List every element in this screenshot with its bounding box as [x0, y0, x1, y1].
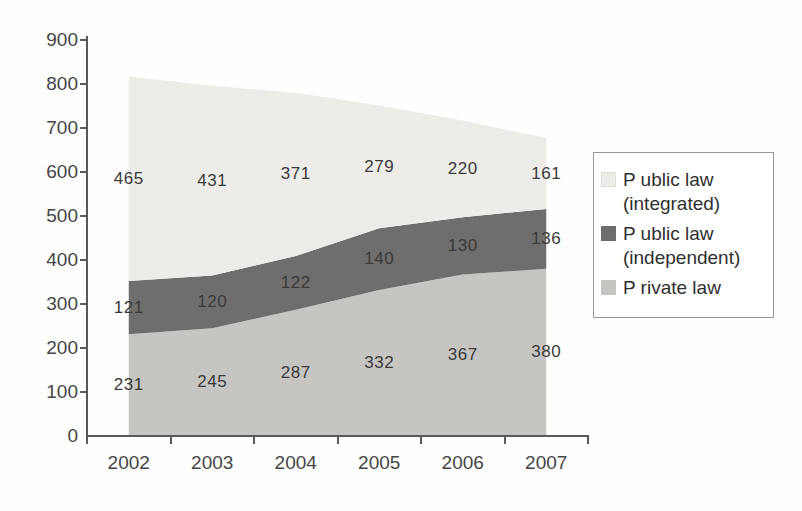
stacked-area-chart: 0100200300400500600700800900 20022003200…	[0, 0, 802, 511]
legend-label-line: P rivate law	[623, 276, 721, 300]
legend-label-line: P ublic law	[623, 222, 740, 246]
x-axis-tick-label: 2002	[108, 452, 150, 474]
y-axis-tick-label: 900	[46, 29, 78, 51]
legend-item-public-law-integrated: P ublic law (integrated)	[601, 168, 767, 216]
legend-label-line: (integrated)	[623, 192, 720, 216]
value-label: 161	[531, 164, 561, 184]
y-axis-tick-label: 800	[46, 73, 78, 95]
legend-item-public-law-independent: P ublic law (independent)	[601, 222, 767, 270]
value-label: 380	[531, 342, 561, 362]
value-label: 465	[114, 169, 144, 189]
value-label: 279	[364, 157, 394, 177]
y-axis-tick-label: 200	[46, 337, 78, 359]
y-axis-tick-label: 700	[46, 117, 78, 139]
legend-label-private-law: P rivate law	[623, 276, 721, 300]
x-axis-tick-label: 2006	[442, 452, 484, 474]
value-label: 332	[364, 353, 394, 373]
y-axis-tick-label: 0	[67, 425, 78, 447]
y-axis-tick-label: 300	[46, 293, 78, 315]
legend-label-line: P ublic law	[623, 168, 720, 192]
value-label: 136	[531, 229, 561, 249]
value-label: 130	[448, 236, 478, 256]
legend-swatch-public-law-integrated	[601, 172, 616, 187]
legend-swatch-public-law-independent	[601, 226, 616, 241]
value-label: 367	[448, 345, 478, 365]
legend-label-public-law-independent: P ublic law (independent)	[623, 222, 740, 270]
y-axis-tick-label: 500	[46, 205, 78, 227]
value-label: 245	[197, 372, 227, 392]
value-label: 140	[364, 249, 394, 269]
x-axis-tick-label: 2007	[525, 452, 567, 474]
chart-legend: P ublic law (integrated) P ublic law (in…	[593, 152, 774, 318]
y-axis-tick-label: 600	[46, 161, 78, 183]
value-label: 231	[114, 375, 144, 395]
legend-swatch-private-law	[601, 280, 616, 295]
x-axis-tick-label: 2003	[191, 452, 233, 474]
value-label: 122	[281, 273, 311, 293]
value-label: 287	[281, 363, 311, 383]
legend-item-private-law: P rivate law	[601, 276, 767, 300]
legend-label-line: (independent)	[623, 246, 740, 270]
value-label: 121	[114, 298, 144, 318]
value-label: 120	[197, 292, 227, 312]
y-axis-tick-label: 400	[46, 249, 78, 271]
legend-label-public-law-integrated: P ublic law (integrated)	[623, 168, 720, 216]
value-label: 431	[197, 171, 227, 191]
x-axis-tick-label: 2005	[358, 452, 400, 474]
x-axis-tick-label: 2004	[275, 452, 317, 474]
value-label: 220	[448, 159, 478, 179]
value-label: 371	[281, 164, 311, 184]
y-axis-tick-label: 100	[46, 381, 78, 403]
